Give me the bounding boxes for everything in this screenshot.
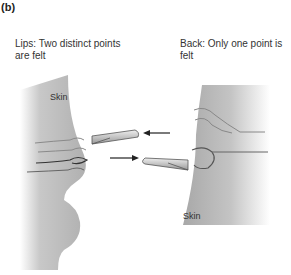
caliper-lips (92, 130, 139, 144)
caliper-back (143, 158, 189, 170)
lips-illustration (20, 75, 87, 270)
back-skin-label: Skin (183, 211, 201, 221)
arrow-right-icon (110, 155, 139, 161)
lips-skin-label: Skin (50, 92, 68, 102)
arrow-left-icon (143, 130, 170, 136)
back-illustration (183, 85, 270, 225)
two-point-diagram (0, 0, 291, 275)
